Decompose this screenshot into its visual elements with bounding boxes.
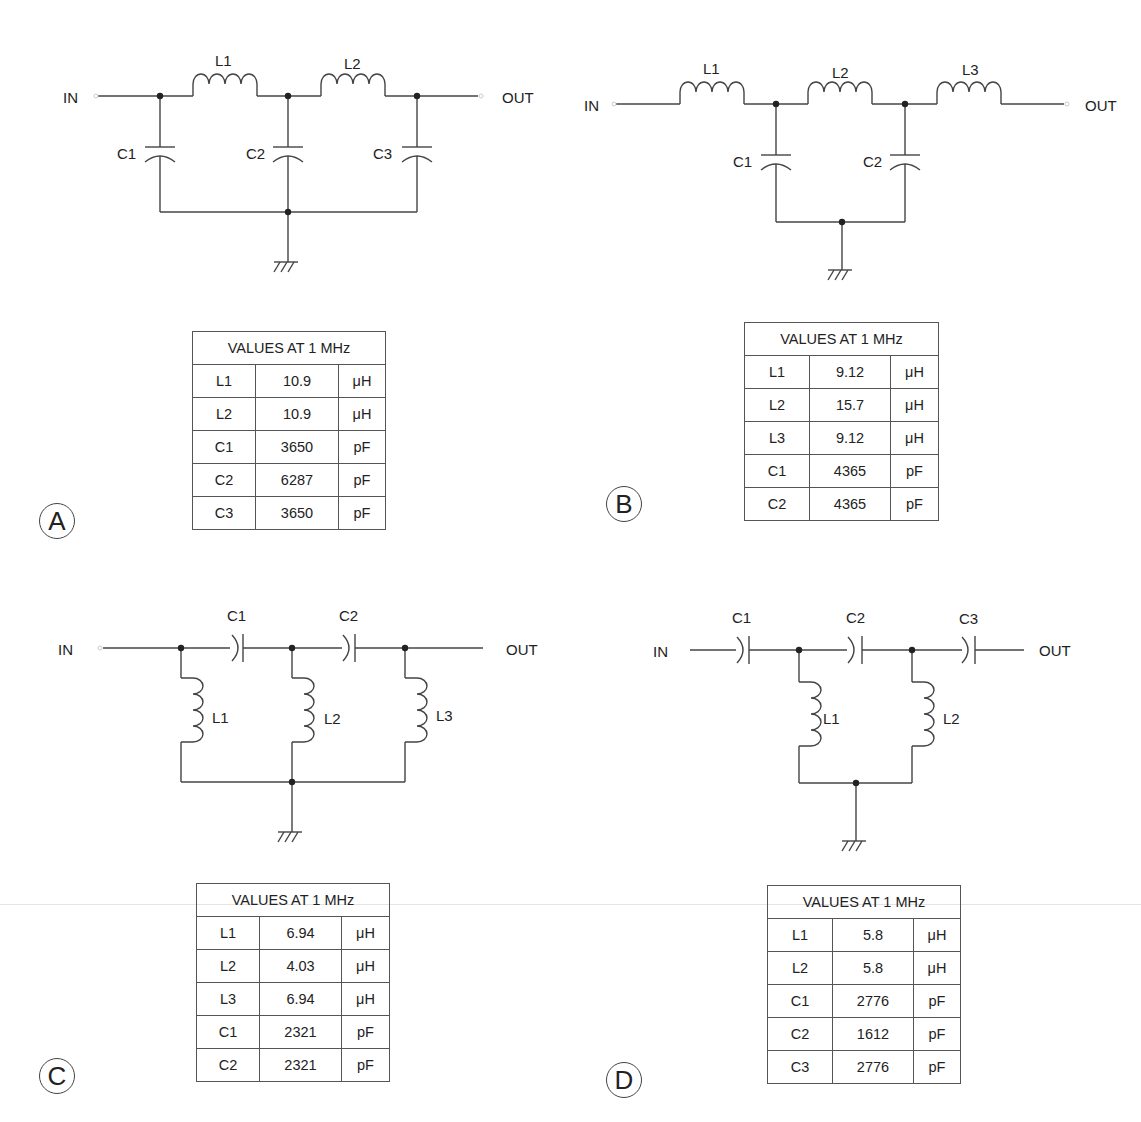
panel-a: IN OUT L1 L2 C1 C2 C3 VALUES AT 1 MHz L1… <box>0 0 570 560</box>
inductor-l1-icon <box>799 682 821 746</box>
label-c2: C2 <box>846 610 865 625</box>
values-table-c: VALUES AT 1 MHz L16.94μH L24.03μH L36.94… <box>196 883 390 1082</box>
table-row: L39.12μH <box>745 422 939 455</box>
label-l2: L2 <box>943 711 960 726</box>
capacitor-c1-icon <box>737 636 749 664</box>
table-row: L215.7μH <box>745 389 939 422</box>
out-label: OUT <box>1085 98 1117 113</box>
label-c1: C1 <box>227 608 246 623</box>
table-title: VALUES AT 1 MHz <box>193 332 386 365</box>
table-row: C12321pF <box>197 1016 390 1049</box>
in-label: IN <box>63 90 78 105</box>
capacitor-c2-icon <box>343 634 355 662</box>
table-title: VALUES AT 1 MHz <box>745 323 939 356</box>
out-label: OUT <box>506 642 538 657</box>
capacitor-c3-icon <box>962 636 975 664</box>
inductor-l3-icon <box>937 82 1001 104</box>
ground-icon <box>842 841 866 851</box>
table-row: C24365pF <box>745 488 939 521</box>
in-label: IN <box>584 98 599 113</box>
inductor-l2-icon <box>292 678 314 742</box>
inductor-l1-icon <box>193 74 257 96</box>
ground-icon <box>828 270 852 280</box>
label-c2: C2 <box>863 154 882 169</box>
table-row: C12776pF <box>768 985 961 1018</box>
table-row: L36.94μH <box>197 983 390 1016</box>
label-c1: C1 <box>733 154 752 169</box>
table-row: L15.8μH <box>768 919 961 952</box>
table-row: L210.9μH <box>193 398 386 431</box>
label-c1: C1 <box>732 610 751 625</box>
inductor-l2-icon <box>912 682 934 746</box>
label-c3: C3 <box>373 146 392 161</box>
label-c2: C2 <box>246 146 265 161</box>
label-l2: L2 <box>344 56 361 71</box>
panel-b: IN OUT L1 L2 L3 C1 C2 VALUES AT 1 MHz L1… <box>570 0 1141 560</box>
label-l3: L3 <box>436 708 453 723</box>
table-row: L19.12μH <box>745 356 939 389</box>
label-l2: L2 <box>832 65 849 80</box>
ground-icon <box>274 262 298 272</box>
out-label: OUT <box>1039 643 1071 658</box>
table-row: C32776pF <box>768 1051 961 1084</box>
out-label: OUT <box>502 90 534 105</box>
values-table-b: VALUES AT 1 MHz L19.12μH L215.7μH L39.12… <box>744 322 939 521</box>
in-label: IN <box>58 642 73 657</box>
schematic-a <box>0 0 570 300</box>
table-row: L16.94μH <box>197 917 390 950</box>
table-row: L110.9μH <box>193 365 386 398</box>
table-row: C21612pF <box>768 1018 961 1051</box>
panel-c: IN OUT C1 C2 L1 L2 L3 VALUES AT 1 MHz L1… <box>0 560 570 1122</box>
label-l1: L1 <box>212 710 229 725</box>
values-table-d: VALUES AT 1 MHz L15.8μH L25.8μH C12776pF… <box>767 885 961 1084</box>
table-row: C13650pF <box>193 431 386 464</box>
label-l3: L3 <box>962 62 979 77</box>
inductor-l3-icon <box>405 678 427 742</box>
capacitor-c1-icon <box>232 634 243 662</box>
panel-d: IN OUT C1 C2 C3 L1 L2 VALUES AT 1 MHz L1… <box>570 560 1141 1122</box>
label-c2: C2 <box>339 608 358 623</box>
capacitor-c2-icon <box>848 636 862 664</box>
inductor-l1-icon <box>680 82 744 104</box>
panel-letter-a: A <box>39 503 75 539</box>
inductor-l2-icon <box>321 74 385 96</box>
panel-letter-c: C <box>39 1058 75 1094</box>
schematic-d <box>570 560 1141 860</box>
table-row: C22321pF <box>197 1049 390 1082</box>
label-c3: C3 <box>959 611 978 626</box>
table-row: L24.03μH <box>197 950 390 983</box>
table-row: C33650pF <box>193 497 386 530</box>
in-label: IN <box>653 644 668 659</box>
label-l1: L1 <box>823 711 840 726</box>
label-l1: L1 <box>215 53 232 68</box>
panel-letter-d: D <box>606 1062 642 1098</box>
table-title: VALUES AT 1 MHz <box>197 884 390 917</box>
label-c1: C1 <box>117 146 136 161</box>
table-row: C14365pF <box>745 455 939 488</box>
ground-icon <box>278 832 302 842</box>
panel-letter-b: B <box>606 486 642 522</box>
table-row: C26287pF <box>193 464 386 497</box>
schematic-b <box>570 0 1141 300</box>
table-title: VALUES AT 1 MHz <box>768 886 961 919</box>
table-row: L25.8μH <box>768 952 961 985</box>
schematic-c <box>0 560 570 860</box>
label-l2: L2 <box>324 711 341 726</box>
label-l1: L1 <box>703 61 720 76</box>
values-table-a: VALUES AT 1 MHz L110.9μH L210.9μH C13650… <box>192 331 386 530</box>
inductor-l2-icon <box>808 82 872 104</box>
inductor-l1-icon <box>181 678 203 742</box>
